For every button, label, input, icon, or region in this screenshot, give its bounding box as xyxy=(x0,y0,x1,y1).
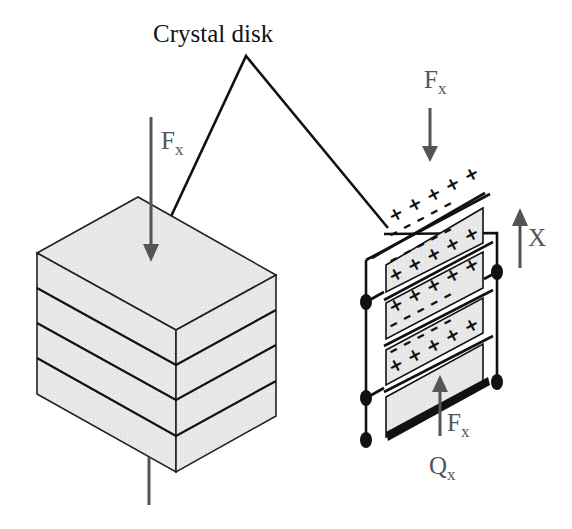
force-label-left: Fx xyxy=(161,127,184,159)
crystal-stack-left xyxy=(37,197,276,505)
crystal-disk-label: Crystal disk xyxy=(153,20,274,47)
arrow-up-icon xyxy=(512,208,528,226)
arrow-down-icon xyxy=(422,146,438,162)
leader-lines xyxy=(160,56,388,240)
terminal-dot xyxy=(491,374,503,390)
terminal-dot xyxy=(360,432,372,448)
charge-label: Qx xyxy=(429,452,456,484)
terminal-dot xyxy=(360,294,372,310)
force-arrow-top-right xyxy=(422,108,438,162)
force-label-top-right: Fx xyxy=(424,66,447,98)
terminal-dot xyxy=(360,390,372,406)
axis-arrow-x xyxy=(512,208,528,268)
force-label-bottom-right: Fx xyxy=(447,409,470,441)
piezoelectric-crystal-diagram: Crystal disk Fx xyxy=(0,0,572,529)
crystal-stack-right: + + + + + – – – – – – – – – – + + + + + … xyxy=(360,161,503,448)
charge-signs: + + + + + – – – – – – – – – – + + + + + … xyxy=(384,161,483,378)
axis-label-x: X xyxy=(528,224,546,251)
terminal-dot xyxy=(491,264,503,280)
